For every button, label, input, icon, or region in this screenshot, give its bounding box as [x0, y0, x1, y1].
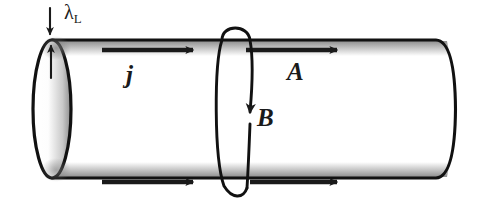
bottom-surface-band	[58, 162, 450, 177]
lambda-subscript: L	[74, 11, 82, 26]
cap-bottom-shading	[41, 158, 71, 182]
lambda-symbol: λ	[64, 1, 74, 23]
cap-top-shading	[41, 36, 71, 60]
cylinder-body	[52, 40, 455, 178]
label-current-density: j	[126, 62, 133, 87]
label-penetration-depth: λL	[64, 2, 82, 22]
label-magnetic-field: B	[257, 105, 274, 130]
label-vector-potential: A	[287, 59, 304, 84]
cylinder-body-fill	[52, 40, 455, 178]
cylinder-illustration	[0, 0, 484, 223]
physics-diagram-superconducting-cylinder: λL j A B	[0, 0, 484, 223]
